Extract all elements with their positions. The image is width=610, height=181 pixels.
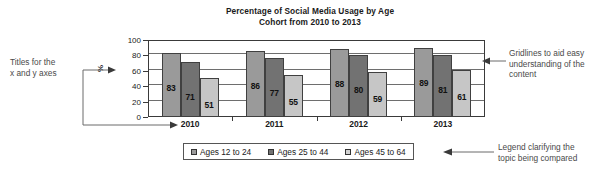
chart-title-line-1: Percentage of Social Media Usage by Age: [150, 6, 470, 17]
bar[interactable]: 77: [265, 58, 284, 117]
bar-group: 867755: [246, 40, 303, 117]
y-axis-tick-mark: [143, 55, 148, 56]
arrow-left-icon: [443, 149, 452, 156]
y-axis-tick-mark: [143, 71, 148, 72]
bar[interactable]: 51: [200, 78, 219, 117]
bar[interactable]: 86: [246, 51, 265, 117]
legend-label: Ages 25 to 44: [277, 147, 328, 157]
y-axis-title: %: [96, 65, 105, 72]
y-axis-tick-mark: [143, 40, 148, 41]
y-axis-tick-labels: 020406080100: [112, 33, 145, 125]
bar[interactable]: 71: [181, 62, 200, 117]
bar-value-label: 59: [369, 95, 386, 104]
x-axis-tick-label: 2011: [232, 119, 316, 129]
bar-value-label: 86: [247, 82, 264, 91]
y-axis-tick-label: 100: [128, 36, 141, 45]
bar-value-label: 80: [350, 86, 367, 95]
bar-value-label: 89: [415, 79, 432, 88]
bar-group: 898161: [414, 40, 471, 117]
x-axis-tick-mark: [401, 117, 402, 121]
legend-swatch: [345, 149, 351, 155]
bar-value-label: 81: [434, 86, 451, 95]
chart-title-line-2: Cohort from 2010 to 2013: [150, 17, 470, 28]
bar[interactable]: 89: [414, 48, 433, 117]
bar[interactable]: 59: [368, 72, 387, 117]
x-axis-tick-label: 2013: [401, 119, 485, 129]
y-axis-tick-label: 0: [137, 113, 141, 122]
bar-group: 837151: [162, 40, 219, 117]
annotation-axes-titles: Titles for the x and y axes: [10, 57, 82, 78]
y-axis-tick-mark: [143, 102, 148, 103]
bar[interactable]: 61: [452, 70, 471, 117]
y-axis-tick-label: 40: [132, 82, 141, 91]
bar[interactable]: 88: [330, 49, 349, 117]
bar-value-label: 83: [163, 84, 180, 93]
bar-value-label: 51: [201, 101, 218, 110]
legend-swatch: [268, 149, 274, 155]
x-axis-tick-mark: [232, 117, 233, 121]
bar-group: 888059: [330, 40, 387, 117]
y-axis-tick-label: 80: [132, 51, 141, 60]
bar-value-label: 88: [331, 80, 348, 89]
bar-value-label: 55: [285, 98, 302, 107]
chart-title: Percentage of Social Media Usage by Age …: [150, 6, 470, 28]
x-axis-tick-mark: [317, 117, 318, 121]
legend-item[interactable]: Ages 25 to 44: [268, 147, 328, 157]
annotation-gridlines: Gridlines to aid easy understanding of t…: [509, 48, 605, 80]
bar[interactable]: 80: [349, 55, 368, 117]
legend-item[interactable]: Ages 12 to 24: [191, 147, 251, 157]
annotation-legend: Legend clarifying the topic being compar…: [498, 142, 606, 163]
legend-swatch: [191, 149, 197, 155]
y-axis-tick-mark: [143, 86, 148, 87]
bar-value-label: 61: [453, 93, 470, 102]
y-axis-tick-label: 20: [132, 98, 141, 107]
bar[interactable]: 55: [284, 75, 303, 117]
chart-legend: Ages 12 to 24Ages 25 to 44Ages 45 to 64: [183, 143, 414, 160]
bar[interactable]: 81: [433, 55, 452, 117]
legend-item[interactable]: Ages 45 to 64: [345, 147, 405, 157]
y-axis-tick-mark: [143, 117, 148, 118]
bar[interactable]: 83: [162, 53, 181, 117]
bar-value-label: 71: [182, 93, 199, 102]
legend-label: Ages 12 to 24: [200, 147, 251, 157]
y-axis-tick-label: 60: [132, 67, 141, 76]
bar-value-label: 77: [266, 89, 283, 98]
x-axis-tick-label: 2012: [317, 119, 401, 129]
bars-layer: 837151867755888059898161: [148, 40, 485, 117]
x-axis-tick-label: 2010: [148, 119, 232, 129]
legend-label: Ages 45 to 64: [354, 147, 405, 157]
